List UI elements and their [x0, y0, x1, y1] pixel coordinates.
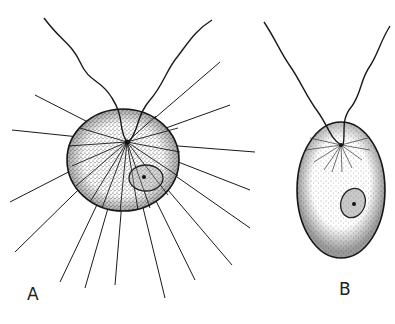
- cell-a-nucleus: [129, 165, 163, 191]
- panel-label-a: A: [27, 284, 39, 304]
- cell-illustration: [0, 0, 395, 324]
- cell-b: [264, 22, 390, 258]
- figure-canvas: A B: [0, 0, 395, 324]
- panel-label-b: B: [339, 279, 351, 299]
- cell-a: [44, 18, 212, 212]
